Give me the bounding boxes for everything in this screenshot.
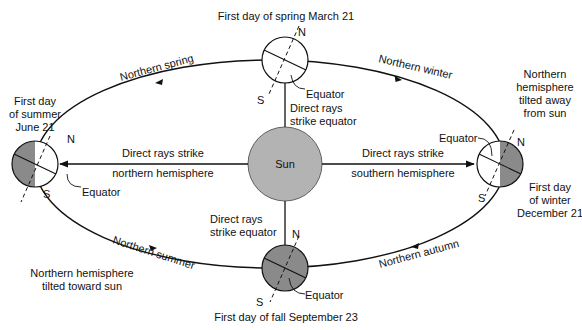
rays-winter-line1: Direct rays strike [362, 147, 444, 159]
tilt-winter-line4: from sun [524, 107, 567, 119]
globe-fall: N S Equator First day of fall September … [214, 228, 358, 323]
title-summer-line3: June 21 [15, 121, 54, 133]
rays-winter-line2: southern hemisphere [351, 167, 454, 179]
globe-summer: N S Equator First day of summer June 21 … [9, 95, 134, 292]
arrow-spring-icon [155, 79, 163, 85]
globe-winter: N S Equator First day of winter December… [439, 68, 582, 219]
label-northern-winter: Northern winter [378, 52, 454, 81]
rays-fall-line2: strike equator [210, 226, 277, 238]
globe-spring: N S Equator First day of spring March 21 [218, 10, 354, 106]
equator-pointer [67, 174, 81, 187]
tilt-winter-line3: tilted away [519, 94, 571, 106]
tilt-winter-line1: Northern [524, 68, 567, 80]
title-winter-line1: First day [529, 181, 572, 193]
title-winter-line3: December 21 [517, 207, 582, 219]
equator-label: Equator [82, 186, 121, 198]
tilt-winter-line2: hemisphere [516, 81, 573, 93]
equator-label: Equator [306, 88, 345, 100]
title-winter-line2: of winter [529, 194, 571, 206]
title-spring: First day of spring March 21 [218, 10, 354, 22]
title-summer-line1: First day [14, 95, 57, 107]
south-label: S [257, 94, 264, 106]
rays-spring-line1: Direct rays [290, 102, 343, 114]
tilt-summer-line2: tilted toward sun [42, 280, 122, 292]
sun-label: Sun [275, 158, 295, 170]
rays-spring-line2: strike equator [290, 115, 357, 127]
tilt-summer-line1: Northern hemisphere [30, 267, 133, 279]
rays-fall-line1: Direct rays [210, 213, 263, 225]
north-label: N [67, 133, 75, 145]
south-label: S [43, 188, 50, 200]
north-label: N [517, 136, 525, 148]
north-label: N [298, 26, 306, 38]
title-summer-line2: of summer [9, 108, 61, 120]
north-label: N [292, 228, 300, 240]
rays-summer-line1: Direct rays strike [122, 147, 204, 159]
rays-summer-line2: northern hemisphere [112, 167, 214, 179]
title-fall: First day of fall September 23 [214, 311, 358, 323]
label-northern-summer: Northern summer [111, 233, 196, 271]
south-label: S [256, 296, 263, 308]
south-label: S [478, 192, 485, 204]
seasons-diagram: Northern spring Northern winter Northern… [0, 0, 582, 330]
equator-label: Equator [439, 132, 478, 144]
equator-label: Equator [305, 289, 344, 301]
